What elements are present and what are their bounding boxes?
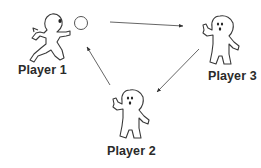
player-1-figure [30,14,70,62]
arrow-player1-to-player3 [110,22,183,26]
diagram-canvas [0,0,261,168]
player-2-figure [113,90,149,138]
arrow-player2-to-player1 [87,47,110,85]
ball-toss-diagram: Player 1 Player 3 Player 2 [0,0,261,168]
player-2-label: Player 2 [107,144,156,158]
player-3-label: Player 3 [208,69,257,83]
player-1-label: Player 1 [18,63,67,77]
arrow-player3-to-player2 [157,49,199,92]
ball-icon [75,17,88,30]
player-3-figure [203,16,239,64]
